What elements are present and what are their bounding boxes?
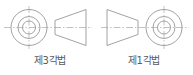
panel-third-angle	[4, 6, 92, 49]
panel-first-angle	[101, 6, 189, 49]
label-third-angle-projection: 제3각법	[2, 54, 98, 68]
label-first-angle-projection: 제1각법	[96, 54, 192, 68]
projection-method-diagram: 제3각법 제1각법	[0, 0, 193, 75]
